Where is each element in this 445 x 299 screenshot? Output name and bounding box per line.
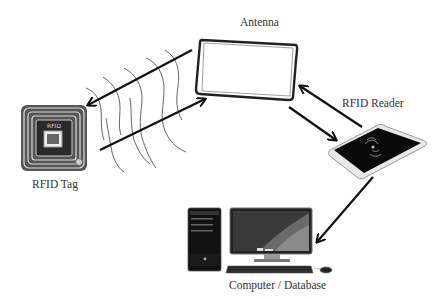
arrow-tag-to-antenna (100, 99, 205, 150)
arrow-reader-to-computer (317, 177, 373, 242)
computer-database-label: Computer / Database (229, 279, 326, 291)
rfid-tag-label: RFID Tag (32, 178, 78, 190)
rfid-reader-icon (329, 124, 427, 178)
arrow-antenna-to-reader (289, 107, 336, 140)
rfid-diagram: RFID (0, 0, 445, 299)
antenna-label: Antenna (240, 16, 279, 28)
antenna-loop-icon (196, 40, 297, 100)
rfid-reader-label: RFID Reader (342, 97, 404, 109)
rfid-tag-icon: RFID (21, 105, 87, 171)
desktop-computer-icon (188, 208, 332, 273)
svg-text:RFID: RFID (47, 122, 61, 129)
radio-waves-icon (86, 50, 186, 172)
diagram-canvas: RFID (0, 0, 445, 299)
